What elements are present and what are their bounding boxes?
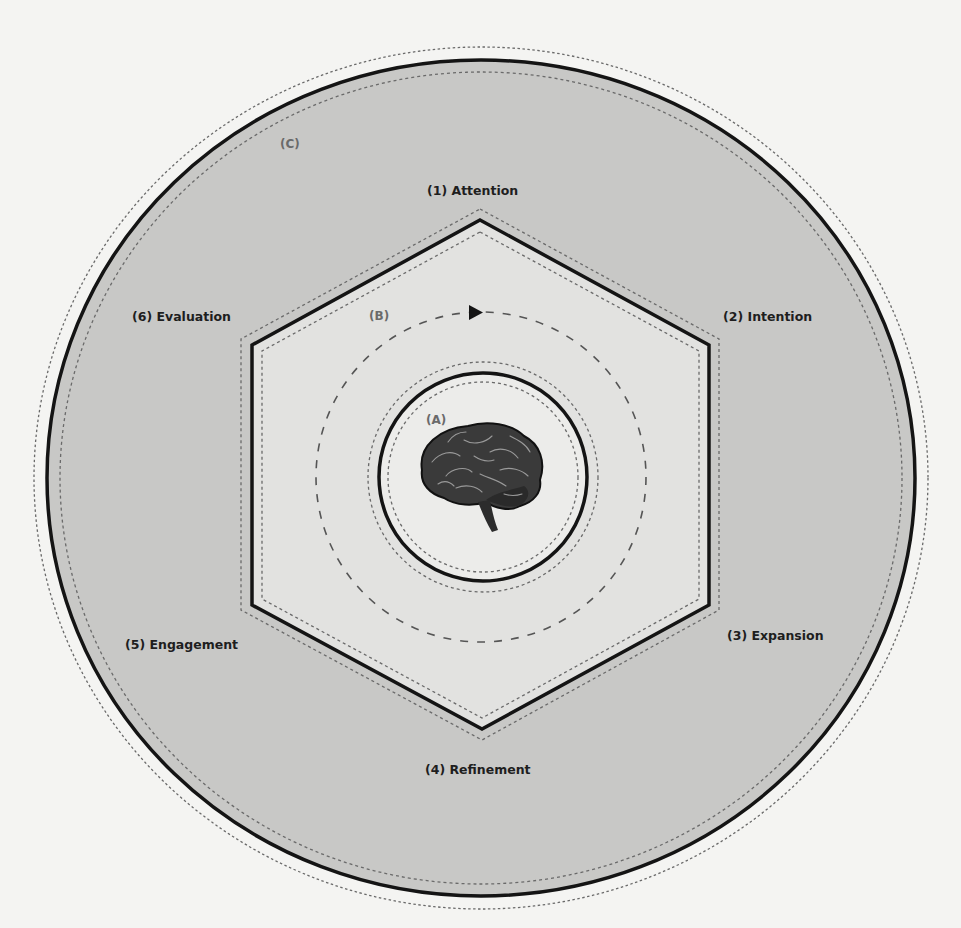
region-label-c: (C) (280, 137, 300, 151)
stage-label-engagement: (5) Engagement (125, 637, 238, 652)
cycle-diagram: (C) (B) (A) (1) Attention (2) Intention … (0, 0, 961, 928)
stage-label-refinement: (4) Refinement (425, 762, 531, 777)
stage-label-expansion: (3) Expansion (727, 628, 824, 643)
region-label-b: (B) (369, 309, 389, 323)
region-label-a: (A) (426, 413, 446, 427)
stage-label-intention: (2) Intention (723, 309, 812, 324)
stage-label-attention: (1) Attention (427, 183, 518, 198)
stage-label-evaluation: (6) Evaluation (132, 309, 231, 324)
